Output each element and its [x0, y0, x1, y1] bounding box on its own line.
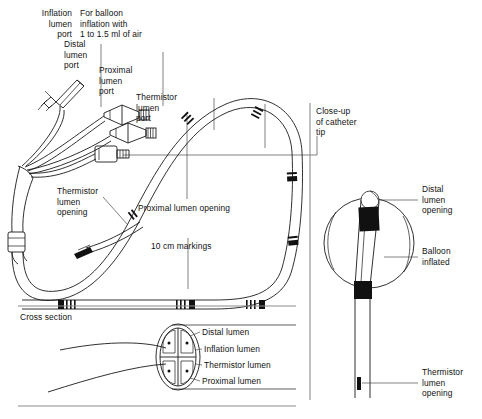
tip-black-band-upper: [358, 206, 379, 231]
label-inflation-lumen-port: Inflation lumen port: [10, 8, 72, 40]
thermistor-opening-slot: [357, 377, 361, 390]
tip-black-band-lower: [354, 281, 372, 299]
proximal-lumen-port-connector: [110, 123, 156, 143]
label-distal-lumen-opening: Distal lumen opening: [422, 184, 480, 216]
hub-junction-sleeve: [8, 166, 33, 252]
label-proximal-lumen-opening: Proximal lumen opening: [138, 203, 268, 214]
distal-lumen-opening-shape: [361, 191, 379, 209]
label-proximal-lumen: Proximal lumen: [202, 376, 296, 387]
label-balloon-inflated: Balloon inflated: [422, 246, 476, 267]
thermistor-lumen-port-connector: [95, 146, 129, 162]
catheter-tip-closeup: [324, 191, 418, 398]
caption-cross-section: Cross section: [20, 312, 110, 323]
label-thermistor-lumen: Thermistor lumen: [204, 360, 300, 371]
label-inflation-lumen: Inflation lumen: [204, 344, 296, 355]
label-thermistor-lumen-opening: Thermistor lumen opening: [57, 186, 121, 218]
label-thermistor-lumen-port: Thermistor lumen port: [136, 92, 198, 124]
inflation-valve-icon: [38, 80, 84, 111]
cross-section-ellipse: [156, 324, 200, 390]
label-closeup-thermistor-lumen-opening: Thermistor lumen opening: [422, 367, 480, 399]
hub-lumen-tubes: [22, 106, 111, 177]
figure-canvas: .ln{fill:none;stroke:#1a1a1a;stroke-widt…: [0, 0, 482, 419]
label-ten-cm-markings: 10 cm markings: [151, 241, 251, 252]
label-balloon-inflation-note: For balloon inflation with 1 to 1.5 ml o…: [80, 8, 172, 40]
caption-closeup-of-catheter-tip: Close-up of catheter tip: [316, 106, 386, 138]
label-distal-lumen: Distal lumen: [202, 327, 292, 338]
